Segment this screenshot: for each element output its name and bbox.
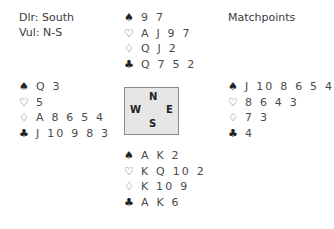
west-diamonds: ♢A 8 6 5 4 — [19, 110, 110, 126]
north-diamonds: ♢Q J 2 — [124, 41, 197, 57]
spade-icon: ♠ — [228, 79, 245, 95]
compass-north: N — [149, 91, 157, 102]
club-icon: ♣ — [228, 126, 245, 142]
vulnerability-label: Vul: N-S — [19, 25, 74, 40]
east-clubs: ♣4 — [228, 126, 334, 142]
west-spades: ♠Q 3 — [19, 79, 110, 95]
heart-icon: ♡ — [124, 164, 141, 180]
club-icon: ♣ — [124, 57, 141, 73]
diamond-icon: ♢ — [228, 110, 245, 126]
heart-icon: ♡ — [228, 95, 245, 111]
heart-icon: ♡ — [19, 95, 36, 111]
south-hearts: ♡K Q 10 2 — [124, 164, 206, 180]
deal-info: Dlr: South Vul: N-S — [19, 10, 74, 40]
north-spades: ♠9 7 — [124, 10, 197, 26]
west-hand: ♠Q 3 ♡5 ♢A 8 6 5 4 ♣J 10 9 8 3 — [19, 79, 110, 141]
club-icon: ♣ — [19, 126, 36, 142]
east-hand: ♠J 10 8 6 5 4 ♡8 6 4 3 ♢7 3 ♣4 — [228, 79, 334, 141]
diamond-icon: ♢ — [124, 41, 141, 57]
east-spades: ♠J 10 8 6 5 4 — [228, 79, 334, 95]
west-clubs: ♣J 10 9 8 3 — [19, 126, 110, 142]
compass-west: W — [130, 104, 141, 115]
spade-icon: ♠ — [19, 79, 36, 95]
west-hearts: ♡5 — [19, 95, 110, 111]
north-hearts: ♡A J 9 7 — [124, 26, 197, 42]
spade-icon: ♠ — [124, 148, 141, 164]
compass-east: E — [166, 104, 173, 115]
compass-box: N W E S — [124, 87, 179, 135]
spade-icon: ♠ — [124, 10, 141, 26]
diamond-icon: ♢ — [19, 110, 36, 126]
east-hearts: ♡8 6 4 3 — [228, 95, 334, 111]
north-clubs: ♣Q 7 5 2 — [124, 57, 197, 73]
south-hand: ♠A K 2 ♡K Q 10 2 ♢K 10 9 ♣A K 6 — [124, 148, 206, 210]
dealer-label: Dlr: South — [19, 10, 74, 25]
south-spades: ♠A K 2 — [124, 148, 206, 164]
scoring-label: Matchpoints — [228, 10, 295, 25]
south-diamonds: ♢K 10 9 — [124, 179, 206, 195]
south-clubs: ♣A K 6 — [124, 195, 206, 211]
heart-icon: ♡ — [124, 26, 141, 42]
north-hand: ♠9 7 ♡A J 9 7 ♢Q J 2 ♣Q 7 5 2 — [124, 10, 197, 72]
club-icon: ♣ — [124, 195, 141, 211]
diamond-icon: ♢ — [124, 179, 141, 195]
compass-south: S — [149, 118, 156, 129]
east-diamonds: ♢7 3 — [228, 110, 334, 126]
